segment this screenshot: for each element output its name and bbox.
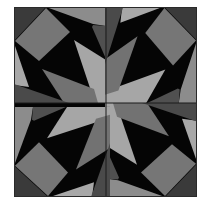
quilt-block	[0, 0, 208, 209]
quadrant-bottom-right	[105, 103, 197, 197]
quadrant-top-right	[105, 7, 197, 103]
quadrant-top-left	[14, 7, 106, 103]
quadrant-bottom-left	[14, 107, 110, 197]
